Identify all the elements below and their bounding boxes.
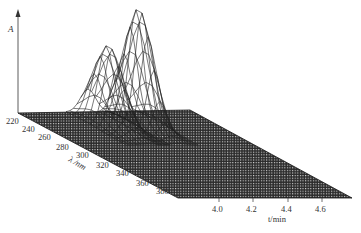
time-tick-label: 4.2: [246, 204, 257, 214]
wavelength-tick-label: 260: [38, 132, 51, 142]
time-tick-label: 4.0: [212, 204, 223, 214]
time-tick-label: 4.4: [281, 204, 292, 214]
wavelength-tick-label: 380: [156, 186, 169, 196]
wavelength-tick-label: 220: [6, 116, 19, 126]
surface-floor: [18, 110, 352, 198]
z-axis-arrow-icon: [16, 9, 21, 17]
time-axis: 4.04.24.44.6: [212, 198, 326, 214]
time-tick-label: 4.6: [315, 204, 326, 214]
time-axis-label: t/min: [268, 214, 287, 224]
wavelength-tick-label: 240: [22, 124, 35, 134]
wavelength-tick-label: 360: [136, 178, 149, 188]
wavelength-tick-label: 320: [96, 160, 109, 170]
wavelength-tick-label: 340: [116, 168, 129, 178]
z-axis-label: A: [7, 24, 14, 34]
wavelength-tick-label: 280: [56, 142, 69, 152]
surface-plot: A 220240260280300320340360380 λ /nm 4.04…: [0, 0, 361, 233]
